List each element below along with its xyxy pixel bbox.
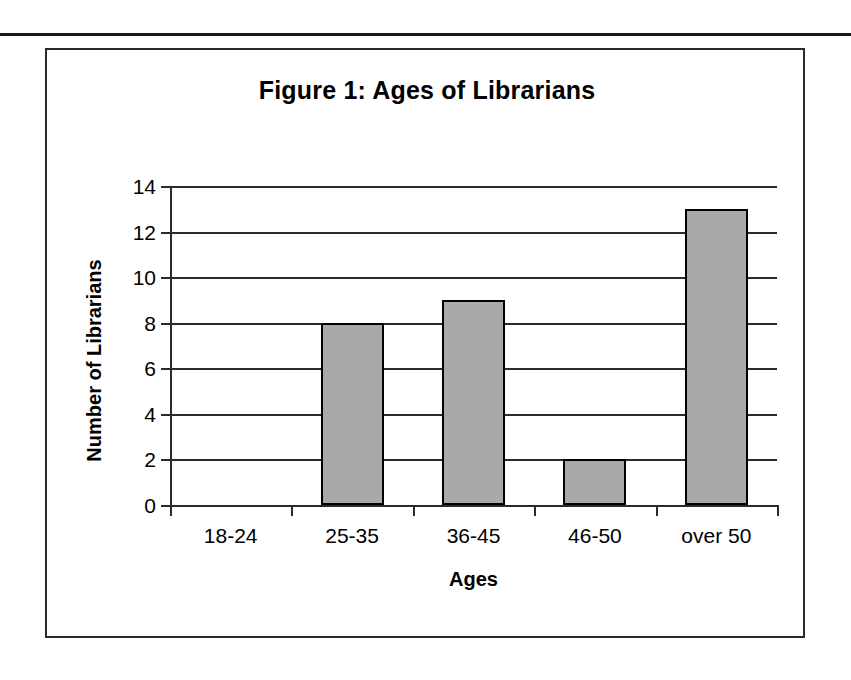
y-axis-tick bbox=[161, 232, 170, 234]
x-axis-title: Ages bbox=[170, 568, 777, 591]
x-axis-tick bbox=[291, 505, 293, 516]
chart-frame: Figure 1: Ages of Librarians Number of L… bbox=[45, 48, 805, 638]
bar bbox=[442, 300, 505, 505]
bar bbox=[321, 323, 384, 505]
chart-title: Figure 1: Ages of Librarians bbox=[47, 76, 807, 105]
y-axis-tick-label: 4 bbox=[144, 403, 156, 424]
y-axis-tick-label: 0 bbox=[144, 495, 156, 516]
y-axis-tick bbox=[161, 505, 170, 507]
y-axis-tick bbox=[161, 277, 170, 279]
y-axis-line bbox=[170, 186, 172, 505]
x-axis-tick bbox=[777, 505, 779, 516]
bar bbox=[685, 209, 748, 505]
x-axis-tick bbox=[534, 505, 536, 516]
y-axis-tick bbox=[161, 323, 170, 325]
x-axis-tick bbox=[656, 505, 658, 516]
y-axis-tick-label: 10 bbox=[133, 267, 156, 288]
bar bbox=[563, 459, 626, 505]
x-axis-tick-label: 46-50 bbox=[568, 525, 622, 546]
x-axis-tick bbox=[413, 505, 415, 516]
x-axis-tick bbox=[170, 505, 172, 516]
y-axis-tick bbox=[161, 186, 170, 188]
x-axis-tick-label: 25-35 bbox=[325, 525, 379, 546]
y-axis-tick-label: 8 bbox=[144, 312, 156, 333]
y-axis-tick-label: 2 bbox=[144, 449, 156, 470]
y-axis-tick-label: 6 bbox=[144, 358, 156, 379]
y-axis-title: Number of Librarians bbox=[83, 211, 106, 511]
y-axis-tick-label: 14 bbox=[133, 176, 156, 197]
y-axis-tick-label: 12 bbox=[133, 221, 156, 242]
x-axis-tick-label: over 50 bbox=[681, 525, 751, 546]
gridline bbox=[170, 505, 777, 507]
y-axis-tick bbox=[161, 368, 170, 370]
plot-area: 02468101214 18-2425-3536-4546-50over 50 bbox=[170, 186, 777, 505]
y-axis-tick bbox=[161, 414, 170, 416]
x-axis-tick-label: 18-24 bbox=[204, 525, 258, 546]
page-divider-rule bbox=[0, 33, 851, 36]
x-axis-tick-label: 36-45 bbox=[447, 525, 501, 546]
gridline bbox=[170, 186, 777, 188]
y-axis-tick bbox=[161, 459, 170, 461]
